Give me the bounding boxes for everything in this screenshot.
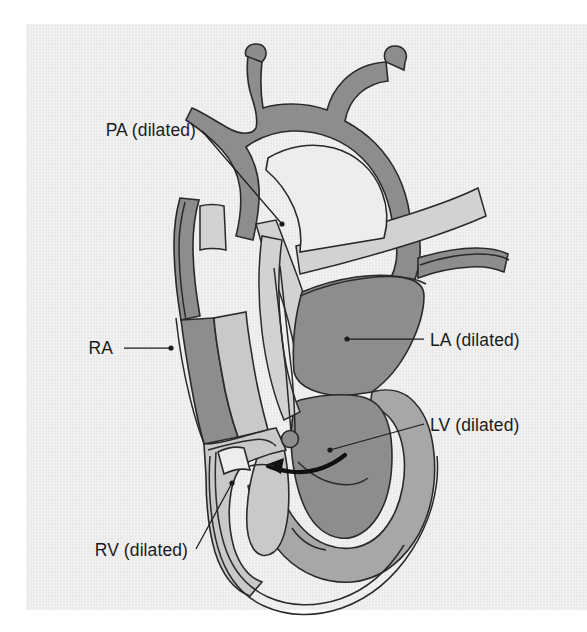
label-ra-dot: [168, 345, 173, 350]
left-subclavian-branch: [384, 46, 406, 70]
septal-defect-marker: [282, 431, 299, 448]
label-lv-text: LV (dilated): [430, 415, 519, 435]
heart-diagram: PA (dilated) RA RV (dilated) LA (dilated…: [0, 0, 587, 632]
figure-page: PA (dilated) RA RV (dilated) LA (dilated…: [0, 0, 587, 632]
label-rv-dot: [229, 480, 234, 485]
label-la-text: LA (dilated): [430, 330, 520, 350]
label-pa-text: PA (dilated): [106, 120, 196, 140]
label-pa-dot: [279, 221, 284, 226]
left-ventricle-cavity: [291, 395, 392, 539]
label-lv-dot: [327, 447, 332, 452]
label-la-dot: [344, 336, 349, 341]
superior-vena-cava: [174, 198, 200, 320]
ra-appendage-notch: [218, 447, 250, 474]
label-ra[interactable]: RA: [88, 338, 173, 358]
label-rv-text: RV (dilated): [95, 540, 188, 560]
label-ra-text: RA: [88, 338, 113, 358]
svc-ra-wedge: [200, 205, 226, 251]
pulmonary-vein: [418, 248, 508, 278]
left-atrium: [293, 275, 424, 396]
